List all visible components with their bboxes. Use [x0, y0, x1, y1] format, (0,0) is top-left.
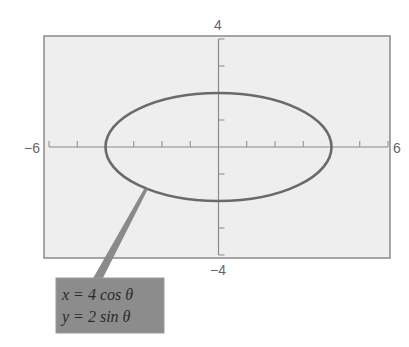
y-max-label: 4: [214, 17, 222, 33]
equation-callout: x = 4 cos θ y = 2 sin θ: [56, 278, 164, 333]
x-max-label: 6: [393, 140, 401, 156]
y-min-label: −4: [210, 262, 226, 278]
equation-y: y = 2 sin θ: [60, 308, 131, 326]
x-min-label: −6: [24, 140, 40, 156]
parametric-ellipse-plot: −6 6 4 −4 x = 4 cos θ y = 2 sin θ: [0, 0, 409, 347]
equation-x: x = 4 cos θ: [61, 286, 133, 303]
